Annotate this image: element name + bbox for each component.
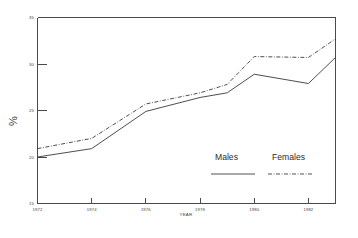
y-axis-title: % — [7, 116, 19, 126]
x-tick-label: 1972 — [33, 207, 43, 212]
plot-frame — [38, 18, 336, 204]
y-tick-label: 15 — [29, 201, 34, 206]
series-line-females — [38, 39, 336, 149]
x-tick-label: 1974 — [87, 207, 97, 212]
x-tick-label: 1978 — [195, 207, 205, 212]
x-axis-ticks: 197219741976197819801982 — [33, 198, 314, 213]
chart-legend: Males Females — [211, 152, 312, 174]
y-tick-label: 20 — [29, 155, 34, 160]
line-chart: 1520253035 197219741976197819801982 % YE… — [0, 0, 358, 238]
legend-label-males: Males — [215, 152, 238, 162]
x-tick-label: 1982 — [303, 207, 313, 212]
legend-label-females: Females — [272, 152, 305, 162]
y-tick-label: 35 — [29, 15, 34, 20]
series-line-males — [38, 57, 336, 157]
chart-canvas: 1520253035 197219741976197819801982 % YE… — [0, 0, 358, 238]
series-group — [38, 39, 336, 157]
x-axis-title: YEAR — [180, 212, 193, 217]
x-tick-label: 1976 — [141, 207, 151, 212]
x-tick-label: 1980 — [249, 207, 259, 212]
y-tick-label: 25 — [29, 108, 34, 113]
y-axis-title-group: % — [7, 116, 19, 126]
y-tick-label: 30 — [29, 62, 34, 67]
